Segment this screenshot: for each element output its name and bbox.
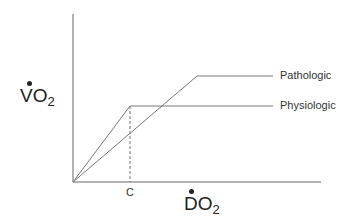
pathologic-label: Pathologic bbox=[280, 69, 331, 81]
x-axis-label: DO2 bbox=[184, 193, 220, 217]
physiologic-curve bbox=[73, 106, 273, 182]
pathologic-curve bbox=[73, 76, 273, 182]
y-axis-label: VO2 bbox=[20, 85, 55, 109]
diagram-canvas bbox=[0, 0, 346, 222]
physiologic-label: Physiologic bbox=[280, 99, 336, 111]
critical-point-tick-label: C bbox=[126, 186, 134, 198]
